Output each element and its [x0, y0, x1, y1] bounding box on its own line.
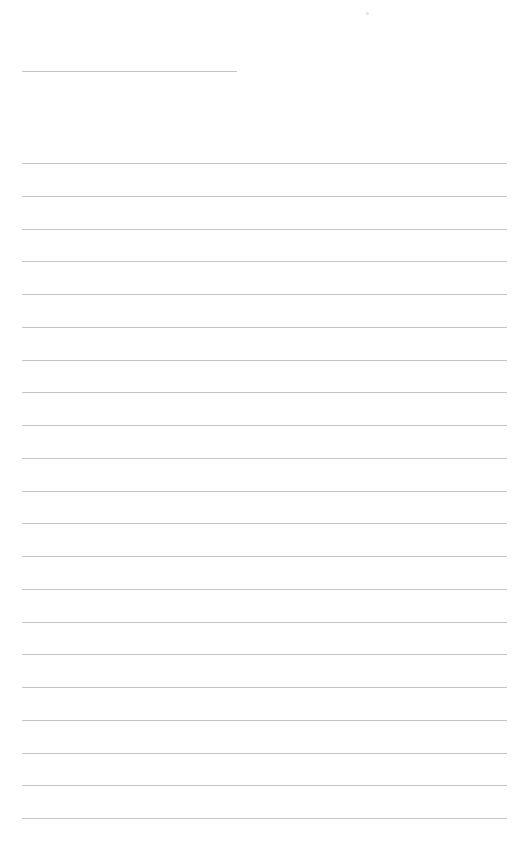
ruled-line [22, 458, 507, 459]
ruled-line [22, 785, 507, 786]
ruled-line [22, 229, 507, 230]
ruled-line [22, 425, 507, 426]
ruled-line [22, 163, 507, 164]
header-line [22, 71, 237, 72]
ruled-line [22, 654, 507, 655]
ruled-line [22, 589, 507, 590]
ruled-line [22, 360, 507, 361]
faint-mark [366, 12, 369, 15]
ruled-line [22, 392, 507, 393]
ruled-line [22, 622, 507, 623]
ruled-line [22, 556, 507, 557]
ruled-line [22, 196, 507, 197]
ruled-line [22, 327, 507, 328]
ruled-line [22, 294, 507, 295]
ruled-line [22, 720, 507, 721]
ruled-line [22, 491, 507, 492]
ruled-line [22, 818, 507, 819]
ruled-line [22, 753, 507, 754]
ruled-line [22, 687, 507, 688]
ruled-line [22, 523, 507, 524]
ruled-line [22, 261, 507, 262]
